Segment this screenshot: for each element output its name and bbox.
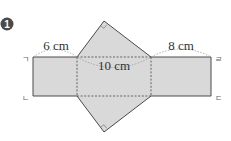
corner-label-bottom-right: ㄷ [215,94,222,103]
triangular-prism-net-diagram: 1 6 cm 10 cm 8 cm ㄱ [0,0,231,141]
label-left-width: 6 cm [43,38,69,53]
top-triangle-face [77,21,151,57]
corner-label-top-left: ㄱ [22,55,29,64]
corner-label-bottom-left: ㄴ [22,94,29,103]
bottom-triangle-face [77,96,151,132]
label-right-width: 8 cm [168,38,194,53]
problem-number: 1 [4,19,10,30]
label-middle-width: 10 cm [98,58,130,73]
left-rectangle-face [33,57,77,96]
problem-number-marker: 1 [1,18,14,31]
right-rectangle-face [151,57,211,96]
corner-label-top-right: ㄹ [215,55,222,64]
